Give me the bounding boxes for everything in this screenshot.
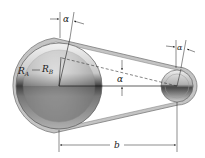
- angle-alpha-right-label: α: [177, 43, 183, 52]
- distance-b-label: b: [114, 140, 120, 150]
- top-angle-dimension: α: [50, 12, 84, 38]
- right-angle-dimension: α: [166, 40, 195, 68]
- angle-alpha-center-label: α: [117, 74, 123, 84]
- angle-alpha-top-label: α: [63, 14, 69, 24]
- belt-drive-diagram: α α α RA RB b: [0, 0, 205, 158]
